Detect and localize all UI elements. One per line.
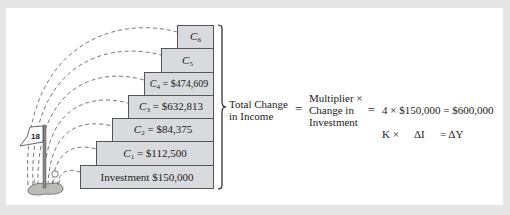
- step-c2-value: = $84,375: [145, 123, 192, 135]
- step-c3-value: = $632,813: [150, 100, 203, 112]
- golf-ball-icon: [52, 171, 58, 177]
- symbol-delta-i: ΔI: [414, 128, 425, 140]
- step-c4-name: C: [150, 78, 157, 89]
- multiplier-label-line2: Change in: [309, 104, 354, 116]
- multiplier-label-line3: Investment: [309, 116, 358, 128]
- step-investment: Investment $150,000: [80, 165, 214, 189]
- brace-icon: [218, 25, 226, 189]
- step-c5: C5: [161, 48, 214, 73]
- multiplier-label-line1: Multiplier ×: [309, 92, 363, 104]
- step-c1-name: C: [123, 147, 130, 159]
- step-investment-label: Investment $150,000: [101, 171, 194, 183]
- step-c6-sub: 6: [197, 36, 201, 44]
- total-change-label-line1: Total Change: [229, 98, 288, 110]
- step-c5-sub: 5: [189, 60, 193, 68]
- step-c6: C6: [177, 25, 214, 49]
- step-c1-value: = $112,500: [134, 147, 187, 159]
- arc-investment: [57, 170, 80, 185]
- symbol-k: K ×: [382, 128, 399, 140]
- equals-sign-2: =: [368, 104, 375, 116]
- equals-sign-1: =: [295, 103, 302, 115]
- step-c3: C3 = $632,813: [128, 95, 214, 119]
- calculation-result: 4 × $150,000 = $600,000: [382, 104, 493, 116]
- total-change-label-line2: in Income: [229, 110, 273, 122]
- step-c4: C4 = $474,609: [144, 72, 214, 96]
- symbol-equals-delta-y: = ΔY: [440, 128, 463, 140]
- step-c1: C1 = $112,500: [96, 141, 214, 166]
- step-c4-value: = $474,609: [160, 78, 208, 89]
- flagpole-icon: [43, 125, 46, 188]
- flag-number: 18: [31, 132, 40, 141]
- step-c2: C2 = $84,375: [112, 118, 214, 142]
